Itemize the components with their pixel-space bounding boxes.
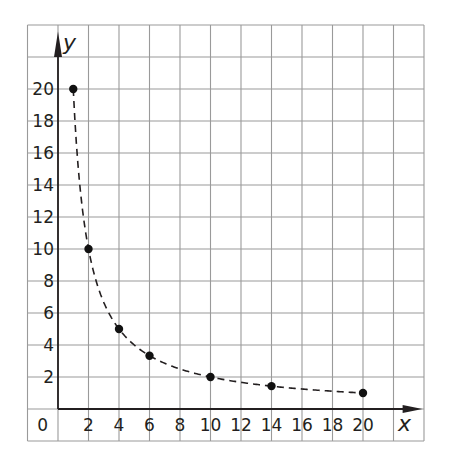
grid <box>28 25 425 441</box>
x-tick-label: 2 <box>83 415 94 435</box>
data-point <box>84 245 92 253</box>
y-tick-label: 12 <box>32 207 54 227</box>
y-tick-label: 4 <box>43 335 54 355</box>
y-tick-label: 20 <box>32 79 54 99</box>
x-tick-label: 20 <box>352 415 374 435</box>
y-tick-label: 6 <box>43 303 54 323</box>
y-tick-label: 10 <box>32 239 54 259</box>
data-point <box>267 382 275 390</box>
dashed-curve <box>73 89 363 393</box>
data-point <box>69 85 77 93</box>
x-axis-label: x <box>397 411 412 436</box>
x-tick-label: 14 <box>261 415 283 435</box>
x-tick-label: 8 <box>175 415 186 435</box>
data-point <box>145 352 153 360</box>
y-axis-arrow-icon <box>54 31 62 57</box>
y-tick-label: 14 <box>32 175 54 195</box>
y-tick-labels: 2468101214161820 <box>32 79 54 387</box>
data-point <box>206 373 214 381</box>
data-point <box>359 389 367 397</box>
y-tick-label: 18 <box>32 111 54 131</box>
data-points <box>69 85 367 397</box>
x-tick-label: 10 <box>200 415 222 435</box>
y-tick-label: 2 <box>43 367 54 387</box>
x-tick-label: 16 <box>291 415 313 435</box>
chart: 02468101214161820 2468101214161820 y x <box>0 0 449 459</box>
x-tick-label: 6 <box>144 415 155 435</box>
x-tick-label: 12 <box>230 415 252 435</box>
y-tick-label: 16 <box>32 143 54 163</box>
y-axis-label: y <box>62 30 77 55</box>
x-tick-labels: 02468101214161820 <box>37 415 373 435</box>
x-tick-label: 18 <box>322 415 344 435</box>
x-tick-label: 4 <box>114 415 125 435</box>
data-point <box>115 325 123 333</box>
y-tick-label: 8 <box>43 271 54 291</box>
x-tick-label: 0 <box>37 415 48 435</box>
